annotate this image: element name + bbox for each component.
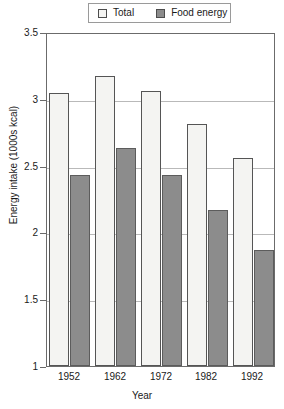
y-axis-tick-label: 2.5 — [8, 162, 38, 172]
y-axis-tick-label: 1 — [8, 362, 38, 372]
bar-1972-food-energy — [162, 175, 182, 366]
bar-1982-total — [187, 124, 207, 366]
legend-entry-total: Total — [98, 8, 134, 18]
y-axis-tick-label: 1.5 — [8, 295, 38, 305]
y-axis-tick-label: 2 — [8, 228, 38, 238]
bar-1972-total — [141, 91, 161, 366]
bar-1962-total — [95, 76, 115, 366]
x-axis-tick-label: 1992 — [222, 372, 282, 382]
bar-1952-food-energy — [70, 175, 90, 366]
y-axis-tick-label: 3.5 — [8, 28, 38, 38]
bar-chart: Total Food energy Energy intake (1000s k… — [0, 0, 284, 409]
bar-1982-food-energy — [208, 210, 228, 366]
bar-1962-food-energy — [116, 148, 136, 366]
legend-label-food-energy: Food energy — [171, 8, 227, 18]
food-energy-swatch-icon — [156, 9, 165, 18]
total-swatch-icon — [98, 9, 107, 18]
y-axis-tick-label: 3 — [8, 95, 38, 105]
chart-legend: Total Food energy — [88, 3, 231, 23]
legend-entry-food-energy: Food energy — [156, 8, 227, 18]
plot-area — [46, 33, 275, 367]
x-axis-label: Year — [0, 391, 284, 401]
legend-label-total: Total — [113, 8, 134, 18]
bar-1992-total — [233, 158, 253, 366]
bar-1992-food-energy — [254, 250, 274, 366]
y-axis-tick-mark — [40, 367, 46, 368]
bar-1952-total — [49, 93, 69, 366]
